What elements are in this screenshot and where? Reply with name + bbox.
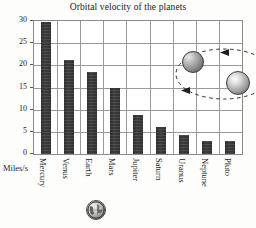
y-axis-tick-label: 30 — [3, 16, 27, 24]
y-axis-tick-label: 5 — [3, 127, 27, 135]
y-axis-tick-mark — [30, 87, 33, 88]
chart-title: Orbital velocity of the planets — [0, 2, 256, 12]
y-axis-tick-label: 25 — [3, 38, 27, 46]
x-axis-label-pluto: Pluto — [223, 158, 233, 176]
y-axis-tick-label: 10 — [3, 105, 27, 113]
earth-globe-icon — [86, 200, 106, 220]
y-axis-tick-label: 0 — [3, 149, 27, 157]
y-axis-tick-mark — [30, 153, 33, 154]
y-axis-unit-label: Miles/s — [3, 163, 28, 173]
y-axis-tick-label: 20 — [3, 60, 27, 68]
y-axis-tick-label: 15 — [3, 83, 27, 91]
y-axis-tick-mark — [30, 64, 33, 65]
x-axis-label-neptune: Neptune — [200, 158, 210, 187]
x-axis-label-uranus: Uranus — [177, 158, 187, 183]
y-axis-tick-mark — [30, 42, 33, 43]
x-axis-label-jupiter: Jupiter — [131, 158, 141, 181]
y-axis: 051015202530 — [33, 20, 243, 155]
x-axis-label-mercury: Mercury — [38, 158, 48, 187]
y-axis-tick-mark — [30, 109, 33, 110]
x-axis-label-venus: Venus — [61, 158, 71, 179]
x-axis-category-labels: MercuryVenusEarthMarsJupiterSaturnUranus… — [33, 156, 243, 228]
x-axis-label-earth: Earth — [84, 158, 94, 176]
y-axis-tick-mark — [30, 20, 33, 21]
x-axis-label-saturn: Saturn — [154, 158, 164, 180]
x-axis-label-mars: Mars — [107, 158, 117, 175]
y-axis-tick-mark — [30, 131, 33, 132]
chart-figure: Orbital velocity of the planets 05101520… — [0, 0, 256, 228]
